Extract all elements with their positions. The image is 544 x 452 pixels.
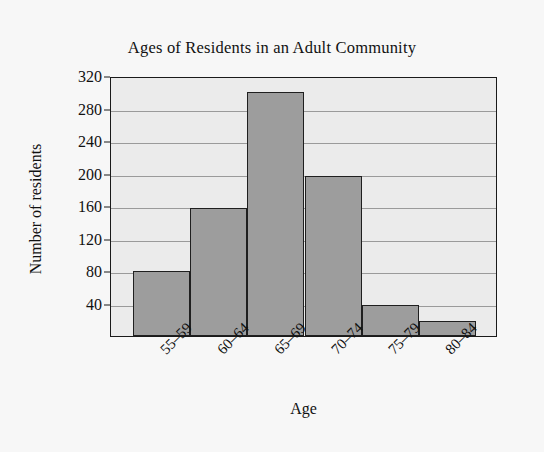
x-tick-label: 65–69 [271,319,310,358]
x-tick-label: 70–74 [328,319,367,358]
x-axis-title: Age [110,400,497,418]
x-tick-label: 55–59 [157,319,196,358]
x-tick-label: 60–64 [214,319,253,358]
x-axis-ticks: 55–5960–6465–6970–7475–7980–84 [0,0,544,452]
x-tick-label: 75–79 [385,319,424,358]
x-tick-label: 80–84 [442,319,481,358]
histogram-figure: Ages of Residents in an Adult Community … [0,0,544,452]
